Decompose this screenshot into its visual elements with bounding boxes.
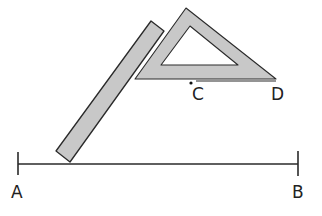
label-b: B (292, 182, 304, 202)
label-c: C (192, 84, 204, 104)
label-d: D (271, 84, 284, 104)
parallel-line-construction-diagram: A B C D (0, 0, 322, 216)
set-square (135, 8, 276, 79)
ruler (56, 21, 164, 162)
label-a: A (11, 182, 23, 202)
